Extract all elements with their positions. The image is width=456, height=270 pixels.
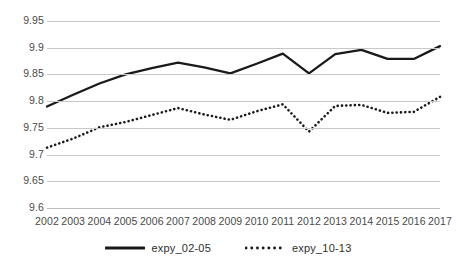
gridline — [47, 155, 440, 156]
gridline — [47, 74, 440, 75]
y-axis-tick-label: 9.75 — [0, 122, 44, 133]
gridline — [47, 21, 440, 22]
legend-swatch-solid — [105, 243, 145, 253]
legend-swatch-dotted — [245, 243, 285, 253]
legend-item-expy_02-05[interactable]: expy_02-05 — [105, 242, 212, 255]
legend-label: expy_02-05 — [152, 242, 212, 255]
y-axis-tick-label: 9.9 — [0, 42, 44, 53]
y-axis-tick-label: 9.95 — [0, 15, 44, 26]
y-axis: 9.69.659.79.759.89.859.99.95 — [0, 0, 44, 270]
line-chart: 9.69.659.79.759.89.859.99.95 20022003200… — [0, 0, 456, 270]
gridline — [47, 101, 440, 102]
gridline — [47, 48, 440, 49]
x-axis-tick-label: 2017 — [420, 214, 456, 228]
y-axis-tick-label: 9.8 — [0, 95, 44, 106]
series-line-expy_10-13 — [47, 97, 440, 148]
legend-label: expy_10-13 — [292, 242, 352, 255]
x-axis: 2002200320042005200620072008200920102011… — [47, 214, 440, 230]
y-axis-tick-label: 9.7 — [0, 149, 44, 160]
gridline — [47, 181, 440, 182]
y-axis-tick-label: 9.6 — [0, 202, 44, 213]
chart-legend: expy_02-05expy_10-13 — [0, 238, 456, 258]
gridline — [47, 208, 440, 209]
gridline — [47, 128, 440, 129]
y-axis-tick-label: 9.65 — [0, 175, 44, 186]
legend-item-expy_10-13[interactable]: expy_10-13 — [245, 242, 352, 255]
series-layer — [47, 21, 440, 208]
plot-area — [47, 21, 440, 208]
series-line-expy_02-05 — [47, 46, 440, 106]
y-axis-tick-label: 9.85 — [0, 68, 44, 79]
